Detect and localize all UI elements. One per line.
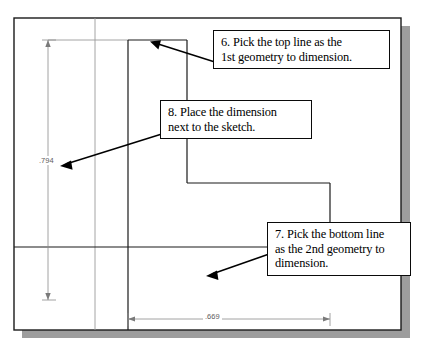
callout-step-6-line-1: 6. Pick the top line as the — [221, 35, 383, 50]
callout-step-7-line-2: as the 2nd geometry to — [275, 242, 404, 257]
callout-step-6[interactable]: 6. Pick the top line as the 1st geometry… — [213, 30, 390, 69]
vertical-dimension-value[interactable]: .794 — [38, 156, 55, 165]
callout-step-8-line-2: next to the sketch. — [168, 120, 305, 135]
horizontal-dimension-value[interactable]: .669 — [203, 312, 222, 321]
callout-step-8-line-1: 8. Place the dimension — [168, 105, 305, 120]
callout-step-7[interactable]: 7. Pick the bottom line as the 2nd geome… — [267, 222, 411, 276]
tutorial-screenshot: .794 .669 6. Pick the top line as the 1s… — [0, 0, 432, 357]
callout-step-8[interactable]: 8. Place the dimension next to the sketc… — [160, 100, 312, 139]
callout-step-7-line-1: 7. Pick the bottom line — [275, 227, 404, 242]
callout-step-6-line-2: 1st geometry to dimension. — [221, 50, 383, 65]
callout-step-7-line-3: dimension. — [275, 256, 404, 271]
